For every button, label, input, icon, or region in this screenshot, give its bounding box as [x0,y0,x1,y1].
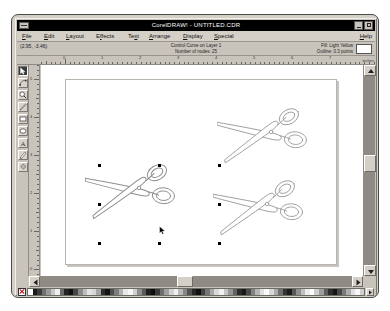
ruler-tick [298,62,299,64]
palette-swatches[interactable] [27,288,365,296]
system-menu-button[interactable] [19,22,29,29]
current-fill-swatch[interactable] [356,44,372,54]
ruler-tick [70,62,71,64]
ruler-tick [340,62,341,64]
tool-text[interactable]: A [18,138,28,148]
ruler-tick [37,141,39,142]
horizontal-ruler[interactable]: 0 1 2 3 4 5 6 7 inches [41,56,375,65]
ruler-tick [65,59,66,64]
vruler-label: 0 [30,267,32,271]
ruler-tick [165,62,166,64]
hruler-label-5: 5 [253,56,255,60]
ruler-tick [250,62,251,64]
menu-item-file[interactable]: FFileile [22,32,32,41]
ruler-tick [122,62,123,64]
selection-handle[interactable] [98,242,101,245]
selection-handle[interactable] [218,164,221,167]
menu-item-text[interactable]: Text [128,32,139,41]
ruler-tick [231,62,232,64]
selection-handle[interactable] [158,242,161,245]
hruler-label-7: 7 [329,56,331,60]
ruler-tick [37,65,39,66]
vertical-scrollbar[interactable] [363,65,375,276]
selection-handle[interactable] [98,164,101,167]
ruler-tick [37,198,39,199]
color-palette[interactable] [17,287,375,296]
ruler-tick [312,62,313,64]
menu-item-display[interactable]: Display [183,32,203,41]
tool-zoom[interactable] [18,90,28,100]
ruler-tick [150,62,151,64]
ruler-tick [193,62,194,64]
tool-fill[interactable] [18,162,28,172]
ruler-tick [108,62,109,64]
tool-ellipse[interactable] [18,126,28,136]
ruler-tick [37,189,39,190]
ruler-tick [60,62,61,64]
tool-pencil[interactable] [18,102,28,112]
ruler-tick [34,193,39,194]
menu-item-special[interactable]: Special [214,32,234,41]
ruler-tick [37,184,39,185]
ruler-tick [255,62,256,64]
ruler-tick [350,62,351,64]
menu-item-effects[interactable]: Effects [96,32,114,41]
ruler-tick [37,227,39,228]
ruler-tick [37,89,39,90]
tool-outline-pen[interactable] [18,150,28,160]
ruler-tick [74,62,75,64]
menu-item-layout[interactable]: Layout [66,32,84,41]
ruler-tick [37,160,39,161]
tool-pick[interactable] [18,66,28,76]
menu-item-arrange[interactable]: Arrange [149,32,170,41]
scroll-up-button[interactable] [364,65,376,76]
scissors-selected[interactable] [85,159,181,221]
ruler-tick [188,62,189,64]
ruler-tick [307,62,308,64]
ruler-tick [345,62,346,64]
maximize-button[interactable] [364,21,373,30]
ruler-tick [264,62,265,64]
ruler-tick [236,62,237,64]
drawing-canvas[interactable] [41,65,363,276]
menu-item-help[interactable]: Help [360,32,372,41]
palette-scroll-right-button[interactable] [366,288,374,296]
ruler-tick [146,62,147,64]
ruler-tick [37,217,39,218]
tool-shape[interactable] [18,78,28,88]
ruler-tick [36,212,40,213]
vertical-ruler[interactable]: 543210123 [29,65,40,276]
title-bar[interactable]: CorelDRAW! - UNTITLED.CDR [17,20,375,31]
horizontal-scroll-thumb[interactable] [177,276,193,287]
ruler-tick [37,241,39,242]
selection-handle[interactable] [98,203,101,206]
hruler-label-4: 4 [215,56,217,60]
ruler-tick [51,62,52,64]
ruler-tick [260,62,261,64]
selection-handle[interactable] [218,203,221,206]
vruler-label: 5 [30,77,32,81]
scissors-bottom-right[interactable] [213,175,309,237]
selection-handle[interactable] [218,242,221,245]
horizontal-scrollbar[interactable] [29,276,363,287]
scroll-down-button[interactable] [364,265,376,276]
scroll-left-button[interactable] [29,276,40,287]
selection-handle[interactable] [158,164,161,167]
coreldraw-window: CorelDRAW! - UNTITLED.CDR FFileile Edit … [11,14,379,298]
vertical-scroll-thumb[interactable] [364,155,376,172]
ruler-tick [37,94,39,95]
scroll-right-button[interactable] [352,276,363,287]
ruler-tick [293,62,294,64]
ruler-tick [37,103,39,104]
scissors-top-right[interactable] [217,103,313,165]
window-buttons [354,21,373,30]
tool-rectangle[interactable] [18,114,28,124]
no-fill-swatch[interactable] [18,288,26,296]
ruler-tick [203,62,204,64]
minimize-button[interactable] [354,21,363,30]
palette-swatch[interactable] [360,289,365,295]
svg-text:A: A [20,140,25,148]
menu-item-edit[interactable]: Edit [44,32,54,41]
hruler-label-2: 2 [139,56,141,60]
ruler-tick [37,122,39,123]
